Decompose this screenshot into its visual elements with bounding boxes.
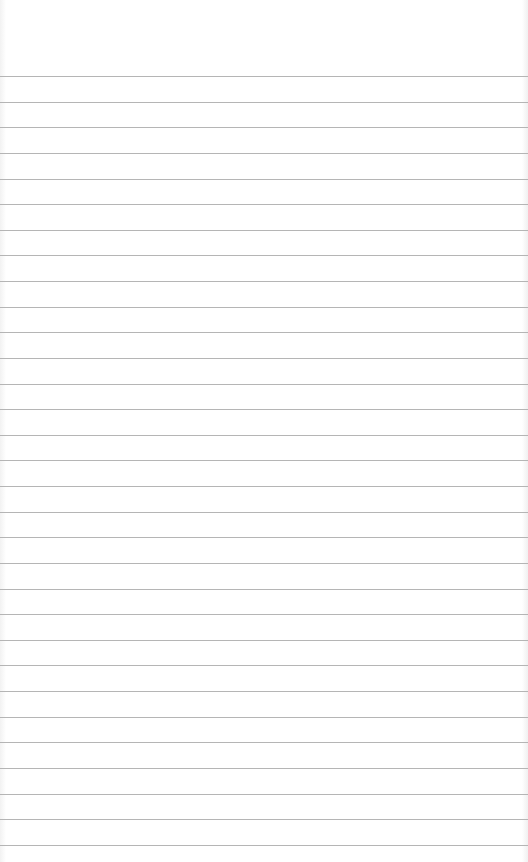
ruled-line [0,819,528,820]
ruled-line [0,102,528,103]
ruled-line [0,665,528,666]
ruled-line [0,153,528,154]
ruled-line [0,691,528,692]
ruled-line [0,768,528,769]
ruled-line [0,460,528,461]
ruled-line [0,486,528,487]
ruled-line [0,409,528,410]
ruled-line [0,589,528,590]
ruled-line [0,204,528,205]
ruled-line [0,640,528,641]
ruled-line [0,230,528,231]
ruled-paper [0,0,528,862]
ruled-line [0,794,528,795]
ruled-line [0,563,528,564]
ruled-line [0,537,528,538]
ruled-line [0,332,528,333]
ruled-line [0,435,528,436]
ruled-line [0,127,528,128]
ruled-line [0,255,528,256]
ruled-line [0,614,528,615]
ruled-line [0,179,528,180]
ruled-line [0,307,528,308]
ruled-line [0,358,528,359]
ruled-line [0,845,528,846]
ruled-line [0,384,528,385]
ruled-line [0,76,528,77]
ruled-line [0,742,528,743]
ruled-line [0,281,528,282]
ruled-line [0,717,528,718]
ruled-line [0,512,528,513]
